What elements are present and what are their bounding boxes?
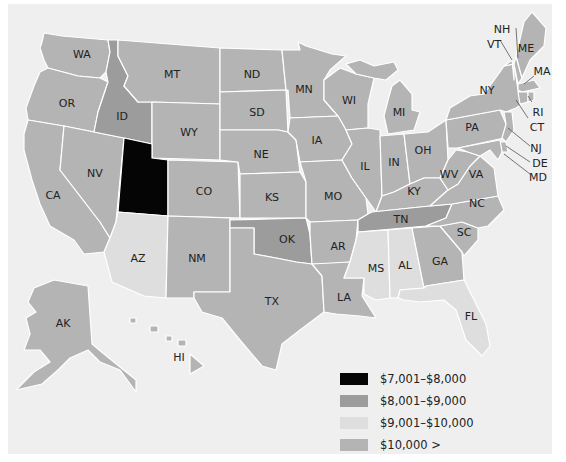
label-ar: AR [330,240,346,253]
state-hi-isle-1 [130,318,136,323]
label-in: IN [388,156,399,169]
leader-nj [508,128,530,146]
legend-item: $7,001–$8,000 [340,368,540,390]
label-ks: KS [265,191,279,204]
label-ms: MS [368,262,384,275]
label-id: ID [116,110,128,123]
legend-item: $8,001–$9,000 [340,390,540,412]
label-ia: IA [312,134,323,147]
label-tn: TN [393,213,409,226]
state-ct [518,92,528,104]
label-la: LA [337,291,351,304]
label-fl: FL [465,310,478,323]
label-nm: NM [188,252,206,265]
label-ri: RI [533,106,544,119]
label-me: ME [518,42,534,55]
legend-label: $7,001–$8,000 [380,372,466,386]
state-ak [16,280,136,392]
label-ok: OK [279,233,296,246]
label-or: OR [59,97,76,110]
label-de: DE [532,157,547,170]
label-nc: NC [469,197,485,210]
label-md: MD [529,171,547,184]
label-il: IL [360,160,370,173]
label-az: AZ [130,252,146,265]
label-nh: NH [494,23,511,36]
label-ky: KY [407,185,421,198]
label-mo: MO [324,190,342,203]
label-ny: NY [480,84,495,97]
label-mn: MN [295,83,313,96]
label-wa: WA [73,48,91,61]
label-ct: CT [530,121,545,134]
label-va: VA [469,168,484,181]
legend-item: $9,001–$10,000 [340,412,540,434]
state-hi-big-island [190,354,204,374]
label-wv: WV [440,168,459,181]
leader-de [506,146,530,162]
label-nv: NV [87,167,103,180]
label-co: CO [196,185,213,198]
label-hi: HI [173,351,185,364]
legend: $7,001–$8,000 $8,001–$9,000 $9,001–$10,0… [340,368,540,456]
label-ga: GA [432,255,449,268]
label-vt: VT [487,38,502,51]
legend-item: $10,000 > [340,434,540,456]
leader-md [504,154,530,174]
legend-swatch-9001-10000 [340,417,368,429]
state-hi-isle-3 [166,336,172,341]
legend-swatch-10000-plus [340,439,368,451]
label-ma: MA [533,65,550,78]
legend-swatch-7001-8000 [340,373,368,385]
label-tx: TX [264,295,280,308]
state-hi-isle-2 [150,326,158,332]
label-pa: PA [465,121,479,134]
legend-swatch-8001-9000 [340,395,368,407]
label-ne: NE [253,148,268,161]
legend-label: $8,001–$9,000 [380,394,466,408]
state-hi-isle-4 [178,340,186,346]
state-ma [518,80,540,92]
label-wi: WI [342,94,356,107]
label-al: AL [398,259,413,272]
label-ca: CA [45,189,61,202]
label-sd: SD [249,106,264,119]
label-ak: AK [56,317,72,330]
label-mt: MT [164,68,180,81]
label-wy: WY [180,126,198,139]
map-figure: WA OR CA NV ID MT WY CO AZ NM ND SD NE K… [0,0,566,462]
label-nj: NJ [530,142,541,155]
label-sc: SC [457,226,472,239]
label-oh: OH [415,144,432,157]
leader-vt [500,40,512,60]
label-nd: ND [244,68,261,81]
label-mi: MI [393,106,406,119]
legend-label: $10,000 > [380,438,441,452]
legend-label: $9,001–$10,000 [380,416,474,430]
